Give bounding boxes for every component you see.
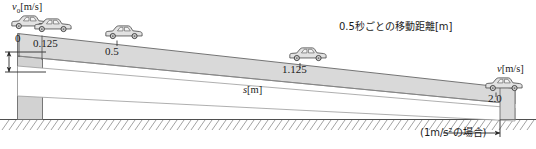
final-velocity-unit: [m/s] [502, 63, 524, 74]
distance-label-05: 0.5 [105, 46, 119, 57]
distance-label-0: 0 [15, 33, 21, 44]
figure-canvas: v0[m/s] 0 0.125 0.5 1.125 2.0 0.5秒ごとの移動距… [0, 0, 536, 149]
distance-label-1125: 1.125 [282, 64, 307, 75]
initial-velocity-unit: [m/s] [20, 1, 42, 12]
distance-label-0125: 0.125 [33, 38, 58, 49]
acceleration-note: (1m/s²の場合) [420, 128, 487, 138]
initial-velocity-label: v0[m/s] [12, 2, 42, 15]
displacement-label: s[m] [243, 85, 262, 96]
displacement-unit: [m] [247, 84, 262, 95]
band-right-end-face [500, 87, 515, 120]
interval-caption: 0.5秒ごとの移動距離[m] [339, 22, 452, 32]
distance-label-20: 2.0 [488, 93, 502, 104]
car-marker-05 [106, 26, 142, 39]
car-marker-1125 [290, 48, 326, 61]
final-velocity-label: v[m/s] [497, 64, 524, 75]
